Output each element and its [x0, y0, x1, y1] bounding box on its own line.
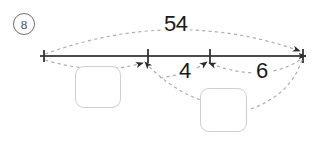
left-segment-measure-label: 4	[176, 60, 194, 82]
total-measure-label: 54	[161, 13, 190, 35]
worksheet-problem: 8 54 4 6	[0, 0, 322, 145]
answer-box-2[interactable]	[200, 88, 247, 132]
answer-box-1[interactable]	[75, 66, 121, 108]
right-segment-measure-label: 6	[253, 60, 271, 82]
